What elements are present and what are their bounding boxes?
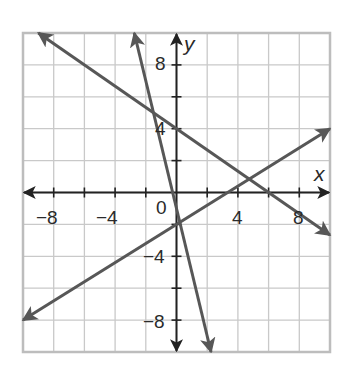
origin-label: 0 <box>156 198 167 217</box>
x-tick-label: −4 <box>96 208 118 227</box>
x-tick-label: −8 <box>36 208 58 227</box>
coordinate-plane <box>0 0 351 373</box>
y-tick-label: 8 <box>155 54 166 73</box>
y-tick-label: −4 <box>143 247 165 266</box>
y-tick-label: 4 <box>155 119 166 138</box>
line-1 <box>38 33 330 235</box>
y-axis-label: y <box>184 33 195 54</box>
x-axis-label: x <box>314 163 325 184</box>
axes <box>24 34 329 351</box>
y-tick-label: −8 <box>143 312 165 331</box>
x-tick-label: 4 <box>232 208 243 227</box>
x-tick-label: 8 <box>293 208 304 227</box>
